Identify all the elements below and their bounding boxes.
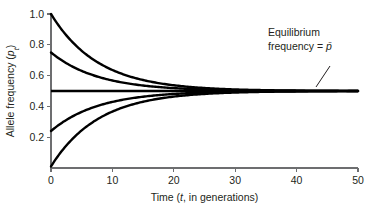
y-axis-ticks: [47, 14, 51, 137]
x-tick-label: 10: [107, 174, 119, 186]
y-tick-label: 0.6: [29, 69, 44, 81]
annotation-leader-line: [316, 66, 330, 87]
x-tick-label: 30: [229, 174, 241, 186]
y-axis-title: Allele frequency (pt): [4, 45, 21, 138]
x-tick-label: 0: [48, 174, 54, 186]
data-curve: [51, 53, 358, 91]
x-axis-ticks: [51, 168, 358, 172]
y-tick-label: 0.2: [29, 131, 44, 143]
x-tick-label: 20: [168, 174, 180, 186]
y-axis-tick-labels: 0.20.40.60.81.0: [29, 8, 44, 143]
y-tick-label: 1.0: [29, 8, 44, 20]
data-curve: [51, 91, 358, 166]
y-tick-label: 0.4: [29, 100, 44, 112]
x-tick-label: 40: [291, 174, 303, 186]
annotation-line-2: frequency = p̄: [268, 40, 332, 52]
annotation-line-1: Equilibrium: [268, 26, 320, 38]
x-axis-tick-labels: 01020304050: [48, 174, 364, 186]
data-curve: [51, 91, 358, 131]
equilibrium-annotation: Equilibrium frequency = p̄: [268, 26, 332, 87]
allele-frequency-chart: 0.20.40.60.81.0 01020304050 Time (t, in …: [0, 0, 375, 210]
x-axis-title: Time (t, in generations): [151, 191, 259, 203]
x-tick-label: 50: [352, 174, 364, 186]
chart-canvas: 0.20.40.60.81.0 01020304050 Time (t, in …: [0, 0, 375, 210]
y-tick-label: 0.8: [29, 38, 44, 50]
